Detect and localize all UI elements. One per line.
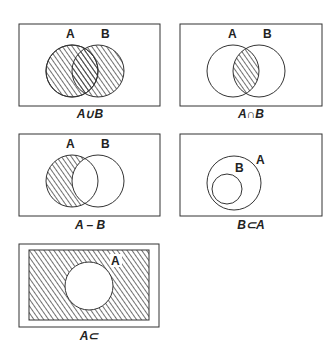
set-b-label: B — [235, 161, 244, 175]
caption-subset: B⊂A — [237, 218, 264, 232]
set-a-label: A — [228, 27, 237, 41]
diagram-difference: A B A – B — [19, 134, 160, 232]
set-b-circle — [212, 174, 242, 204]
set-a-label: A — [256, 153, 265, 167]
diagram-union: A B A∪B — [19, 24, 160, 121]
diagram-subset: B A B⊂A — [180, 134, 322, 232]
caption-intersection: A∩B — [237, 107, 264, 121]
set-a-label: A — [66, 27, 75, 41]
diagram-complement: A A⊂ — [19, 244, 159, 343]
diagram-intersection: A B A∩B — [180, 24, 322, 121]
venn-diagrams-figure: A B A∪B A B A∩B A B A – B B A B⊂A — [0, 0, 335, 354]
caption-union: A∪B — [76, 107, 104, 121]
caption-difference: A – B — [74, 218, 106, 232]
set-a-circle — [65, 262, 113, 310]
caption-complement: A⊂ — [79, 329, 100, 343]
set-b-label: B — [101, 137, 110, 151]
set-b-label: B — [263, 27, 272, 41]
set-a-label: A — [111, 254, 120, 268]
set-b-label: B — [101, 27, 110, 41]
set-a-label: A — [66, 137, 75, 151]
